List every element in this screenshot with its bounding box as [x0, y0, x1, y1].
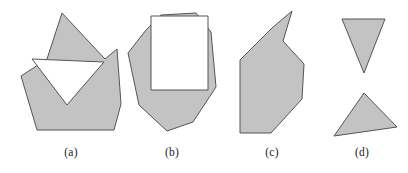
shape-b-rectangular-hole [151, 16, 208, 90]
caption-row: (a) (b) (c) (d) [0, 144, 408, 173]
shape-d-group [334, 19, 397, 136]
shape-b-group [128, 13, 216, 131]
shape-a-group [21, 13, 121, 130]
caption-a: (a) [41, 144, 101, 160]
caption-d: (d) [332, 144, 392, 160]
shape-c-group [240, 11, 304, 133]
caption-c: (c) [242, 144, 302, 160]
caption-b: (b) [142, 144, 202, 160]
shape-c-outline [240, 11, 304, 133]
shape-d-bottom-triangle [334, 93, 397, 136]
figure-panel: (a) (b) (c) (d) [0, 0, 408, 173]
shape-d-top-triangle [342, 19, 385, 73]
